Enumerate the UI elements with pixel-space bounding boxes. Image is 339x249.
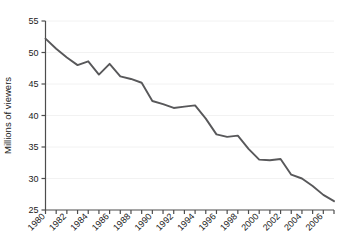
x-tick-label-1998: 1998 bbox=[218, 211, 239, 232]
y-tick-labels-group: 25303540455055 bbox=[28, 16, 38, 215]
x-tick-label-2000: 2000 bbox=[239, 211, 260, 232]
x-tick-label-1984: 1984 bbox=[68, 211, 89, 232]
x-tick-label-1988: 1988 bbox=[111, 211, 132, 232]
x-tick-label-1996: 1996 bbox=[197, 211, 218, 232]
y-tick-label-35: 35 bbox=[28, 142, 38, 152]
data-series-line bbox=[46, 39, 335, 202]
y-axis-title: Millions of viewers bbox=[2, 77, 13, 154]
y-axis-title-group: Millions of viewers bbox=[2, 77, 13, 154]
x-tick-labels-group: 1980198219841986198819901992199419961998… bbox=[26, 211, 325, 232]
x-tick-label-2004: 2004 bbox=[282, 211, 303, 232]
y-tick-label-45: 45 bbox=[28, 79, 38, 89]
x-tick-label-2006: 2006 bbox=[303, 211, 324, 232]
x-tick-label-1994: 1994 bbox=[175, 211, 196, 232]
data-line-group bbox=[46, 39, 335, 202]
x-tick-label-2002: 2002 bbox=[261, 211, 282, 232]
x-tick-label-1986: 1986 bbox=[90, 211, 111, 232]
x-tick-label-1982: 1982 bbox=[47, 211, 68, 232]
y-tick-label-50: 50 bbox=[28, 48, 38, 58]
x-tick-label-1992: 1992 bbox=[154, 211, 175, 232]
y-tick-label-25: 25 bbox=[28, 205, 38, 215]
chart-canvas: 1980198219841986198819901992199419961998… bbox=[0, 0, 339, 249]
line-chart: 1980198219841986198819901992199419961998… bbox=[0, 0, 339, 249]
gridlines-group bbox=[46, 21, 335, 179]
y-tick-label-40: 40 bbox=[28, 111, 38, 121]
y-tick-label-55: 55 bbox=[28, 16, 38, 26]
y-tick-label-30: 30 bbox=[28, 174, 38, 184]
x-tick-label-1990: 1990 bbox=[133, 211, 154, 232]
